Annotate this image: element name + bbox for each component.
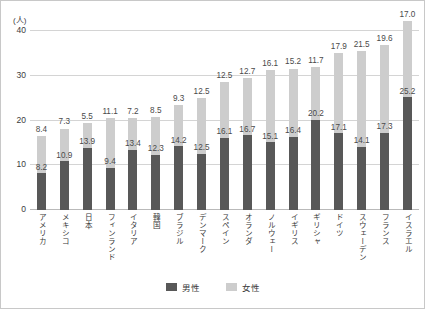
bar-value-label-male: 14.2	[171, 137, 187, 145]
bar-group[interactable]: 15.216.4	[282, 31, 305, 210]
y-axis-tick-20: 20	[17, 115, 26, 125]
bar-group[interactable]: 11.720.2	[305, 31, 328, 210]
bar-value-label-female: 11.1	[102, 108, 117, 116]
bar-group[interactable]: 12.512.5	[190, 31, 213, 210]
bar-segment-male[interactable]: 17.1	[334, 133, 343, 210]
bar-value-label-male: 16.1	[216, 128, 232, 136]
bar-segment-female[interactable]: 19.6	[380, 45, 389, 133]
bar-value-label-male: 16.4	[285, 127, 301, 135]
x-axis-category: スウェーデン	[350, 213, 373, 265]
bar-stack[interactable]: 11.19.4	[106, 118, 115, 210]
bar-segment-male[interactable]: 13.4	[128, 150, 137, 210]
bar-group[interactable]: 8.48.2	[30, 31, 53, 210]
bar-value-label-female: 19.6	[377, 35, 393, 43]
bar-stack[interactable]: 11.720.2	[311, 67, 320, 210]
bar-group[interactable]: 19.617.3	[373, 31, 396, 210]
bar-value-label-male: 20.2	[308, 110, 324, 118]
bar-value-label-female: 12.7	[239, 68, 255, 76]
bar-value-label-male: 14.1	[354, 137, 370, 145]
bar-group[interactable]: 7.213.4	[122, 31, 145, 210]
bar-segment-male[interactable]: 15.1	[266, 142, 275, 210]
bar-value-label-male: 25.2	[399, 88, 415, 96]
bar-segment-male[interactable]: 12.3	[151, 155, 160, 210]
bar-group[interactable]: 5.513.9	[76, 31, 99, 210]
bar-stack[interactable]: 8.512.3	[151, 117, 160, 210]
x-axis-category-label: オランダ	[243, 213, 251, 245]
x-axis-category: 韓国	[144, 213, 167, 265]
bar-segment-male[interactable]: 16.4	[289, 137, 298, 210]
bar-value-label-female: 5.5	[81, 113, 92, 121]
bar-value-label-female: 9.3	[173, 95, 184, 103]
bar-value-label-male: 12.3	[148, 145, 164, 153]
x-axis-category-label: 日本	[83, 213, 91, 229]
bar-segment-male[interactable]: 12.5	[197, 154, 206, 210]
bar-segment-male[interactable]: 25.2	[403, 97, 412, 210]
bar-stack[interactable]: 19.617.3	[380, 45, 389, 210]
bar-stack[interactable]: 16.115.1	[266, 70, 275, 210]
bar-group[interactable]: 17.025.2	[396, 31, 419, 210]
bar-group[interactable]: 11.19.4	[99, 31, 122, 210]
bar-value-label-male: 13.4	[125, 140, 141, 148]
x-axis-category-label: スウェーデン	[358, 213, 366, 261]
bar-segment-male[interactable]: 9.4	[106, 168, 115, 210]
bar-stack[interactable]: 12.516.1	[220, 82, 229, 210]
bar-value-label-male: 9.4	[104, 158, 115, 166]
bar-stack[interactable]: 7.310.9	[60, 129, 69, 210]
x-axis-category-label: ブラジル	[175, 213, 183, 245]
bar-stack[interactable]: 9.314.2	[174, 105, 183, 210]
chart-legend: 男性女性	[0, 281, 426, 293]
bar-segment-female[interactable]: 21.5	[357, 51, 366, 147]
x-axis-category-label: ドイツ	[335, 213, 343, 237]
bar-segment-male[interactable]: 17.3	[380, 133, 389, 210]
x-axis-category: オランダ	[236, 213, 259, 265]
bar-value-label-female: 12.5	[216, 72, 232, 80]
bar-stack[interactable]: 12.512.5	[197, 98, 206, 210]
bar-group[interactable]: 16.115.1	[259, 31, 282, 210]
y-axis-tick-10: 10	[17, 159, 26, 169]
bar-segment-male[interactable]: 8.2	[37, 173, 46, 210]
bar-segment-male[interactable]: 10.9	[60, 161, 69, 210]
bar-group[interactable]: 12.516.1	[213, 31, 236, 210]
x-axis-category-label: イタリア	[129, 213, 137, 245]
bar-group[interactable]: 7.310.9	[53, 31, 76, 210]
x-axis-category: 日本	[76, 213, 99, 265]
bar-value-label-male: 12.5	[194, 144, 210, 152]
legend-item[interactable]: 女性	[226, 281, 260, 293]
bar-group[interactable]: 9.314.2	[167, 31, 190, 210]
bar-segment-male[interactable]: 14.1	[357, 147, 366, 210]
legend-swatch-icon	[226, 283, 237, 291]
bar-stack[interactable]: 17.917.1	[334, 53, 343, 210]
bar-stack[interactable]: 21.514.1	[357, 51, 366, 210]
x-axis-category: フィンランド	[99, 213, 122, 265]
bar-value-label-male: 17.3	[377, 123, 393, 131]
bar-segment-male[interactable]: 16.7	[243, 135, 252, 210]
x-axis-category-label: メキシコ	[60, 213, 68, 245]
bar-value-label-female: 12.5	[194, 88, 210, 96]
bar-segment-male[interactable]: 14.2	[174, 146, 183, 210]
bar-stack[interactable]: 12.716.7	[243, 78, 252, 210]
bar-value-label-male: 10.9	[56, 152, 72, 160]
bar-segment-male[interactable]: 13.9	[83, 148, 92, 210]
bar-group[interactable]: 17.917.1	[327, 31, 350, 210]
stacked-bar-chart: (人) 010203040 8.48.27.310.95.513.911.19.…	[0, 0, 426, 310]
bar-group[interactable]: 21.514.1	[350, 31, 373, 210]
bar-group[interactable]: 12.716.7	[236, 31, 259, 210]
x-axis-category: イタリア	[122, 213, 145, 265]
bar-value-label-male: 8.2	[36, 164, 47, 172]
bar-segment-male[interactable]: 20.2	[311, 120, 320, 210]
bar-segment-female[interactable]: 17.9	[334, 53, 343, 133]
bar-stack[interactable]: 8.48.2	[37, 136, 46, 210]
x-axis-category: アメリカ	[30, 213, 53, 265]
y-axis-tick-40: 40	[17, 25, 26, 35]
bar-group[interactable]: 8.512.3	[144, 31, 167, 210]
bar-stack[interactable]: 5.513.9	[83, 123, 92, 210]
bar-value-label-female: 17.9	[331, 43, 347, 51]
legend-label: 女性	[242, 281, 260, 293]
bar-stack[interactable]: 17.025.2	[403, 21, 412, 210]
bar-stack[interactable]: 7.213.4	[128, 118, 137, 210]
bar-value-label-female: 17.0	[399, 11, 415, 19]
bar-segment-male[interactable]: 16.1	[220, 138, 229, 210]
x-axis-category: ノルウェー	[259, 213, 282, 265]
bar-stack[interactable]: 15.216.4	[289, 69, 298, 210]
legend-item[interactable]: 男性	[166, 281, 200, 293]
